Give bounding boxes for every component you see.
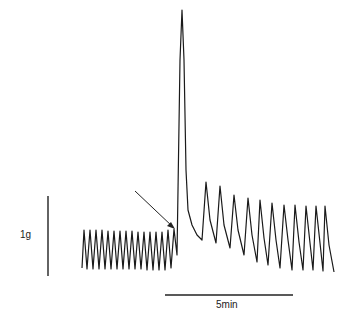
arrow-icon <box>135 191 175 229</box>
force-trace-line <box>82 10 334 272</box>
y-scale-label: 1g <box>20 229 31 240</box>
x-scale-label: 5min <box>216 299 238 310</box>
force-trace-figure <box>0 0 351 327</box>
